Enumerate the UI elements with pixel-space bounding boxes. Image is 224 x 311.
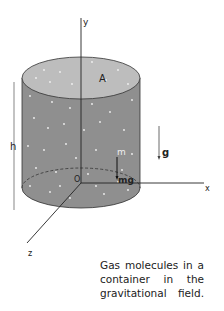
y-axis-label: y <box>83 17 89 27</box>
z-axis-label: z <box>28 249 32 258</box>
area-label: A <box>99 73 106 84</box>
origin-label: O <box>74 175 80 184</box>
caption-line: container in the <box>100 272 204 286</box>
height-label: h <box>10 141 16 152</box>
mass-label: m <box>117 147 126 157</box>
x-axis-label: x <box>205 184 210 193</box>
caption-line: Gas molecules in a <box>100 258 204 272</box>
weight-label: mg <box>118 175 134 185</box>
gravity-arrowhead <box>158 156 161 160</box>
caption: Gas molecules in a container in the grav… <box>100 258 204 300</box>
caption-line: gravitational field. <box>100 286 204 300</box>
gravity-label: g <box>162 147 169 158</box>
